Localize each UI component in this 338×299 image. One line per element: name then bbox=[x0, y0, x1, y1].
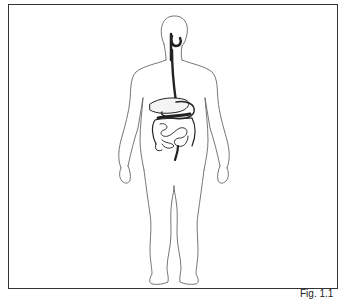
esophagus bbox=[172, 50, 176, 102]
small-intestine bbox=[160, 124, 188, 149]
figure-caption: Fig. 1.1 bbox=[300, 289, 333, 299]
liver bbox=[150, 98, 189, 113]
digestive-organs bbox=[150, 34, 195, 160]
mouth bbox=[171, 36, 181, 46]
body-outline bbox=[119, 16, 230, 284]
rectum bbox=[175, 146, 178, 160]
